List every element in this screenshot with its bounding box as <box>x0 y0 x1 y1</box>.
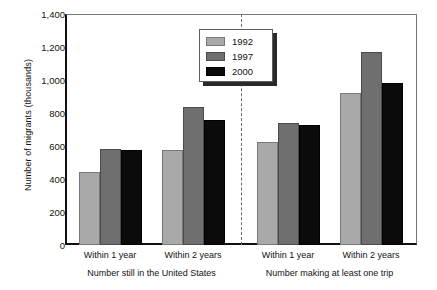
legend-label-2000: 2000 <box>232 67 253 77</box>
y-axis-tick-label: 1,400 <box>7 9 65 20</box>
bar-1992-group4 <box>340 93 361 245</box>
bar-1992-group1 <box>79 172 100 245</box>
x-axis-tick-label: Within 2 years <box>342 250 399 260</box>
x-axis-tick-label: Within 2 years <box>164 250 221 260</box>
bar-1992-group3 <box>257 142 278 245</box>
legend-entry: 1997 <box>206 49 272 64</box>
y-axis-tick-label: 1,200 <box>7 42 65 53</box>
bar-1997-group2 <box>183 107 204 245</box>
x-axis-group-label: Number making at least one trip <box>266 268 394 278</box>
y-axis-tick-label: 600 <box>7 141 65 152</box>
y-axis-tick-label: 200 <box>7 207 65 218</box>
legend-swatch-1992 <box>206 37 225 46</box>
legend-entry: 1992 <box>206 34 272 49</box>
bar-2000-group2 <box>204 120 225 245</box>
y-axis-tick-label: 0 <box>7 240 65 251</box>
legend: 1992 1997 2000 <box>199 29 273 82</box>
bar-chart: Number of migrants (thousands) 1,4001,20… <box>0 0 437 290</box>
bar-1997-group4 <box>361 52 382 245</box>
y-axis-tick-label: 800 <box>7 108 65 119</box>
legend-label-1997: 1997 <box>232 52 253 62</box>
bar-2000-group3 <box>299 125 320 245</box>
legend-swatch-1997 <box>206 52 225 61</box>
legend-entry: 2000 <box>206 64 272 79</box>
bar-2000-group1 <box>121 150 142 245</box>
legend-swatch-2000 <box>206 67 225 76</box>
bar-1992-group2 <box>162 150 183 245</box>
y-axis-tick-label: 400 <box>7 174 65 185</box>
bar-2000-group4 <box>382 83 403 245</box>
bar-1997-group1 <box>100 149 121 245</box>
y-axis-tick-label: 1,000 <box>7 75 65 86</box>
x-axis-group-label: Number still in the United States <box>87 268 216 278</box>
bar-1997-group3 <box>278 123 299 245</box>
x-axis-tick-label: Within 1 year <box>262 250 315 260</box>
x-axis-tick-label: Within 1 year <box>84 250 137 260</box>
y-axis: 1,4001,2001,0008006004002000 <box>0 0 65 290</box>
legend-label-1992: 1992 <box>232 37 253 47</box>
